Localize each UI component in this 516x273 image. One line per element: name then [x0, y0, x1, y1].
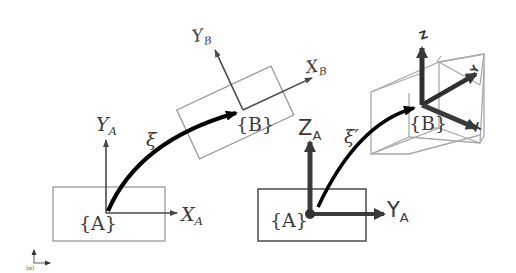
z-a-label: ZA [298, 118, 321, 139]
xi-prime-label: ξ′ [344, 127, 359, 146]
diagram-canvas: Z Y X YA XA {A} ξ YB XB {B} ZA YA {A} ξ′… [0, 0, 516, 273]
xi-label: ξ [146, 130, 156, 149]
y-a-label: YA [96, 115, 117, 134]
origin-marker [34, 250, 50, 263]
x-b-label: XB [305, 57, 327, 77]
svg-text:Y: Y [468, 63, 482, 76]
y-b-label: YB [191, 26, 212, 45]
x-b-axis [243, 78, 312, 110]
y-b-axis-3d [422, 74, 476, 105]
frame-a-label: {A} [79, 214, 117, 233]
y-b-axis [215, 50, 243, 110]
frame-a-label-3d: {A} [270, 211, 308, 230]
origin-label: (o) [26, 265, 34, 271]
x-a-label: XA [181, 205, 203, 224]
frame-b-label: {B} [236, 115, 274, 134]
svg-text:Z: Z [418, 28, 430, 43]
transform-arrow-xi [108, 113, 236, 211]
y-a-label-3d: YA [387, 200, 409, 221]
frame-b-label-3d: {B} [409, 114, 447, 133]
diagram-svg: Z Y X [0, 0, 516, 273]
